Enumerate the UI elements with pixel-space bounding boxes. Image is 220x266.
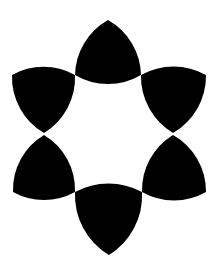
reuleaux-hexagon-figure: [0, 0, 220, 266]
